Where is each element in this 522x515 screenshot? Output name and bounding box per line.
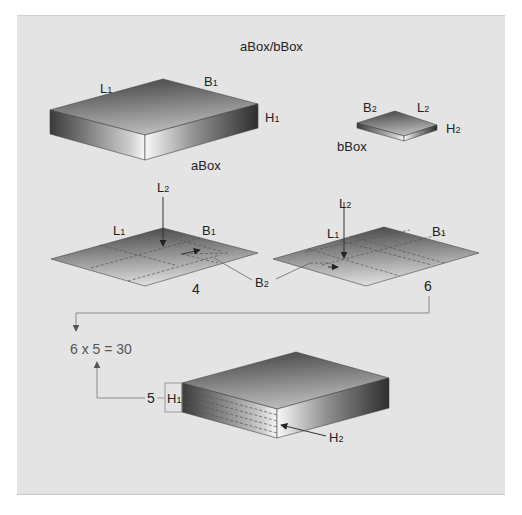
layout-2-plate <box>273 202 479 286</box>
layout-2-l1-label: L1 <box>327 226 339 241</box>
box-packing-diagram: aBox/bBox L1 B1 H1 aBox B2 L2 H2 bBox L2… <box>0 0 522 515</box>
bbox-length-label: L2 <box>417 100 429 115</box>
abox-height-label: H1 <box>265 110 279 125</box>
stacked-box-shape <box>165 352 389 438</box>
stack-layers-count: 5 <box>147 390 155 406</box>
bbox-height-label: H2 <box>446 121 460 136</box>
layout-1-b2-label: B2 <box>255 275 269 290</box>
bbox-name-label: bBox <box>337 139 367 154</box>
layout-2-count: 6 <box>424 278 432 294</box>
connector-count-to-calc <box>76 296 429 331</box>
calculation-expression: 6 x 5 = 30 <box>70 341 132 357</box>
abox-breadth-label: B1 <box>204 74 218 89</box>
abox-name-label: aBox <box>191 158 221 173</box>
diagram-title: aBox/bBox <box>240 39 303 54</box>
stack-h2-label: H2 <box>329 430 343 445</box>
connector-layers-to-calc <box>97 362 145 398</box>
stack-h1-label: H1 <box>167 391 181 406</box>
layout-1-l1-label: L1 <box>113 223 125 238</box>
layout-2-l2-label: L2 <box>339 196 351 211</box>
layout-1-b1-label: B1 <box>202 223 216 238</box>
layout-1-count: 4 <box>192 281 200 297</box>
bbox-shape <box>357 111 437 141</box>
layout-1-l2-label: L2 <box>157 180 169 195</box>
layout-2-b1-label: B1 <box>432 224 446 239</box>
abox-length-label: L1 <box>100 81 112 96</box>
bbox-breadth-label: B2 <box>363 100 377 115</box>
abox-shape <box>50 79 258 160</box>
layout-1-plate <box>51 197 258 286</box>
